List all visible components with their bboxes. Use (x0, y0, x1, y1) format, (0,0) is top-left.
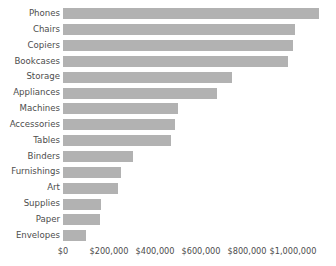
bar[interactable] (63, 88, 217, 99)
bar-track (63, 149, 336, 165)
bar-chart: PhonesChairsCopiersBookcasesStorageAppli… (0, 0, 336, 266)
x-tick-label: $800,000 (227, 246, 266, 256)
plot-area: PhonesChairsCopiersBookcasesStorageAppli… (0, 6, 336, 244)
bar[interactable] (63, 119, 175, 130)
bar-row: Furnishings (0, 164, 336, 180)
bar[interactable] (63, 230, 86, 241)
bar-track (63, 164, 336, 180)
bar-track (63, 212, 336, 228)
category-label: Copiers (28, 38, 60, 54)
bar-row: Tables (0, 133, 336, 149)
category-label: Art (47, 180, 60, 196)
category-label: Furnishings (11, 164, 60, 180)
x-tick-label: $600,000 (181, 246, 220, 256)
bar-row: Storage (0, 69, 336, 85)
bar[interactable] (63, 135, 171, 146)
bar[interactable] (63, 214, 100, 225)
bar[interactable] (63, 8, 319, 19)
bar-row: Bookcases (0, 54, 336, 70)
bar-row: Machines (0, 101, 336, 117)
category-label: Appliances (13, 85, 60, 101)
category-label: Envelopes (16, 228, 60, 244)
category-label: Machines (20, 101, 60, 117)
bar[interactable] (63, 199, 101, 210)
bar[interactable] (63, 24, 295, 35)
bar-track (63, 6, 336, 22)
x-tick-label: $200,000 (89, 246, 128, 256)
bar-track (63, 22, 336, 38)
bar-track (63, 180, 336, 196)
bar-track (63, 54, 336, 70)
category-label: Bookcases (14, 54, 60, 70)
bar-track (63, 117, 336, 133)
bar-track (63, 101, 336, 117)
bar[interactable] (63, 56, 288, 67)
bar-row: Appliances (0, 85, 336, 101)
category-label: Storage (26, 69, 60, 85)
bar-row: Binders (0, 149, 336, 165)
bar[interactable] (63, 72, 232, 83)
x-axis: $0$200,000$400,000$600,000$800,000$1,000… (0, 246, 336, 266)
x-tick-label: $0 (58, 246, 68, 256)
category-label: Accessories (10, 117, 60, 133)
category-label: Paper (36, 212, 60, 228)
category-label: Binders (28, 149, 60, 165)
bar[interactable] (63, 167, 121, 178)
bar[interactable] (63, 151, 133, 162)
bar-row: Art (0, 180, 336, 196)
bar-row: Paper (0, 212, 336, 228)
bar-row: Phones (0, 6, 336, 22)
bar-track (63, 196, 336, 212)
bar-track (63, 85, 336, 101)
bar-track (63, 38, 336, 54)
x-tick-label: $400,000 (135, 246, 174, 256)
category-label: Supplies (24, 196, 60, 212)
bar-row: Copiers (0, 38, 336, 54)
category-label: Tables (33, 133, 60, 149)
bar[interactable] (63, 183, 118, 194)
category-label: Phones (29, 6, 60, 22)
bar-track (63, 69, 336, 85)
bar[interactable] (63, 40, 293, 51)
bar-row: Accessories (0, 117, 336, 133)
bar-track (63, 133, 336, 149)
bar-row: Envelopes (0, 228, 336, 244)
bar[interactable] (63, 103, 178, 114)
category-label: Chairs (33, 22, 60, 38)
bar-row: Supplies (0, 196, 336, 212)
x-tick-label: $1,000,000 (270, 246, 317, 256)
bar-track (63, 228, 336, 244)
bar-row: Chairs (0, 22, 336, 38)
